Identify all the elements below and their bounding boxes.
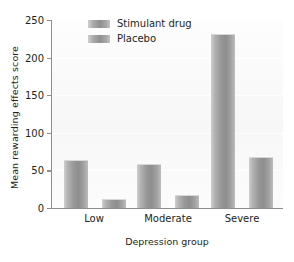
legend-label: Stimulant drug bbox=[117, 18, 192, 29]
legend-swatch bbox=[88, 35, 110, 43]
bar[interactable] bbox=[64, 160, 88, 208]
y-tick-label: 250 bbox=[25, 15, 44, 26]
bar[interactable] bbox=[249, 157, 273, 208]
y-tick-label: 50 bbox=[31, 165, 44, 176]
y-tick-label: 0 bbox=[38, 203, 44, 214]
bar-chart: Mean rewarding effects score 05010015020… bbox=[0, 0, 294, 262]
legend: Stimulant drugPlacebo bbox=[88, 19, 192, 49]
legend-item[interactable]: Stimulant drug bbox=[88, 19, 192, 28]
bar[interactable] bbox=[137, 164, 161, 208]
x-tick-label: Moderate bbox=[131, 213, 205, 229]
bar[interactable] bbox=[211, 34, 235, 208]
bar-group bbox=[211, 20, 273, 208]
legend-item[interactable]: Placebo bbox=[88, 34, 192, 43]
legend-label: Placebo bbox=[117, 33, 156, 44]
x-tick-label: Severe bbox=[205, 213, 279, 229]
x-axis-title: Depression group bbox=[51, 236, 283, 247]
x-tick-label: Low bbox=[57, 213, 131, 229]
y-axis-title: Mean rewarding effects score bbox=[9, 18, 20, 218]
y-tick-label: 100 bbox=[25, 127, 44, 138]
x-axis-tick-labels: LowModerateSevere bbox=[51, 213, 283, 229]
bar[interactable] bbox=[175, 195, 199, 208]
bar[interactable] bbox=[102, 199, 126, 208]
y-tick-label: 200 bbox=[25, 52, 44, 63]
legend-swatch bbox=[88, 20, 110, 28]
y-tick-mark bbox=[47, 208, 52, 209]
y-tick-label: 150 bbox=[25, 90, 44, 101]
